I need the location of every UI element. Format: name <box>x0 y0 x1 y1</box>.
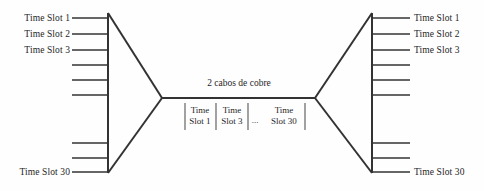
frame-cell-2-line1: Time <box>221 105 242 116</box>
left-input-ticks <box>72 18 108 172</box>
frame-cells-ellipsis: ... <box>252 115 259 126</box>
tdm-diagram: Time Slot 1 Time Slot 2 Time Slot 3 Time… <box>0 0 484 191</box>
cable-label: 2 cabos de cobre <box>207 78 271 88</box>
right-label-time-slot-2: Time Slot 2 <box>414 29 460 39</box>
frame-cell-2: Time Slot 3 <box>221 105 242 126</box>
left-label-time-slot-2: Time Slot 2 <box>0 29 70 39</box>
frame-cell-1-line1: Time <box>189 105 210 116</box>
frame-cell-3: Time Slot 30 <box>271 105 297 126</box>
frame-cell-1-line2: Slot 1 <box>189 116 210 127</box>
left-multiplexer-funnel <box>108 13 162 173</box>
frame-cell-2-line2: Slot 3 <box>221 116 242 127</box>
right-label-time-slot-1: Time Slot 1 <box>414 13 460 23</box>
diagram-line-art <box>0 0 484 191</box>
right-label-time-slot-3: Time Slot 3 <box>414 45 460 55</box>
right-label-time-slot-30: Time Slot 30 <box>414 167 464 177</box>
left-label-time-slot-30: Time Slot 30 <box>0 167 70 177</box>
frame-cell-3-line2: Slot 30 <box>271 116 297 127</box>
right-demultiplexer-funnel <box>315 13 372 173</box>
left-label-time-slot-3: Time Slot 3 <box>0 45 70 55</box>
frame-cell-3-line1: Time <box>271 105 297 116</box>
left-label-time-slot-1: Time Slot 1 <box>0 13 70 23</box>
right-output-ticks <box>372 18 410 172</box>
frame-cell-1: Time Slot 1 <box>189 105 210 126</box>
